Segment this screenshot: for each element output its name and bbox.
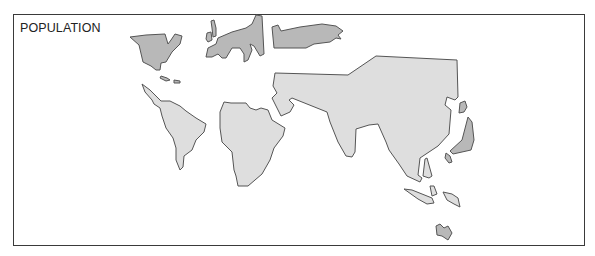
region-iceland — [206, 32, 212, 42]
region-philippines — [423, 158, 432, 178]
world-cartogram — [0, 0, 595, 256]
region-russia — [272, 24, 343, 48]
region-sulawesi — [443, 192, 460, 207]
region-caribbean-1 — [160, 76, 170, 81]
region-sumatra — [404, 189, 434, 204]
region-north-america — [130, 34, 182, 70]
region-japan-north — [459, 101, 467, 113]
region-korea — [445, 153, 452, 163]
region-asia — [272, 56, 458, 182]
region-caribbean-2 — [174, 80, 180, 83]
region-australia — [436, 224, 452, 240]
region-japan — [450, 117, 474, 154]
region-south-america — [142, 84, 206, 170]
region-africa — [220, 102, 285, 186]
region-borneo — [430, 186, 437, 196]
